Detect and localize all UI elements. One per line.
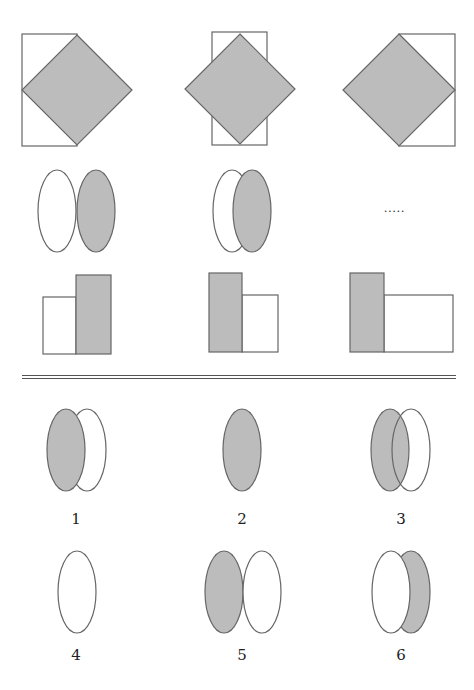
gray-ellipse bbox=[77, 170, 115, 252]
gray-ellipse bbox=[371, 409, 409, 491]
question-cell-r1-c2 bbox=[185, 32, 295, 145]
question-cell-r3-c3 bbox=[350, 273, 453, 352]
white-rectangle bbox=[43, 297, 76, 354]
option-label-3[interactable]: 3 bbox=[386, 511, 416, 527]
question-grid bbox=[22, 32, 455, 354]
question-cell-r1-c1 bbox=[22, 34, 132, 146]
gray-ellipse bbox=[223, 409, 261, 491]
option-4[interactable] bbox=[58, 551, 96, 633]
question-cell-r3-c2 bbox=[209, 273, 278, 352]
gray-diamond bbox=[185, 34, 295, 144]
white-ellipse bbox=[38, 170, 76, 252]
option-6[interactable] bbox=[372, 551, 430, 633]
option-3[interactable] bbox=[371, 409, 430, 491]
gray-rectangle bbox=[350, 273, 384, 352]
option-2[interactable] bbox=[223, 409, 261, 491]
white-ellipse bbox=[372, 551, 410, 633]
gray-ellipse bbox=[205, 551, 243, 633]
gray-ellipse bbox=[47, 409, 85, 491]
option-label-4[interactable]: 4 bbox=[61, 647, 91, 663]
option-label-5[interactable]: 5 bbox=[227, 647, 257, 663]
white-ellipse bbox=[243, 551, 281, 633]
gray-rectangle bbox=[209, 273, 242, 352]
question-cell-r2-c1 bbox=[38, 170, 115, 252]
white-ellipse bbox=[58, 551, 96, 633]
option-1[interactable] bbox=[47, 409, 106, 491]
missing-figure-placeholder: ..... bbox=[384, 203, 405, 213]
option-label-6[interactable]: 6 bbox=[386, 647, 416, 663]
option-label-2[interactable]: 2 bbox=[227, 511, 257, 527]
puzzle-canvas bbox=[0, 0, 474, 690]
option-label-1[interactable]: 1 bbox=[61, 511, 91, 527]
white-rectangle bbox=[384, 295, 453, 352]
question-cell-r1-c3 bbox=[343, 34, 455, 146]
question-cell-r2-c2 bbox=[213, 170, 271, 252]
gray-ellipse bbox=[233, 170, 271, 252]
double-divider-line bbox=[22, 376, 456, 379]
gray-rectangle bbox=[76, 275, 111, 354]
question-cell-r3-c1 bbox=[43, 275, 111, 354]
white-rectangle bbox=[242, 295, 278, 352]
option-5[interactable] bbox=[205, 551, 281, 633]
